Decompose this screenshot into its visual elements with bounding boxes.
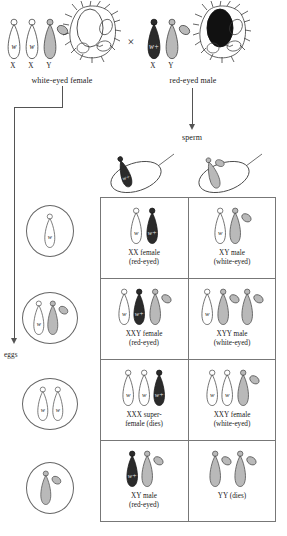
chromosome-X-w: w [43,213,57,249]
female-arrow-elbow [14,107,63,108]
offspring-label-r3c1-line1: XXX super- [100,411,188,420]
chromosome-Y [216,288,239,326]
offspring-chromosomes-r4c2 [188,446,276,488]
svg-text:w: w [30,42,35,51]
chromosome-X-wplus: w+ [146,18,162,60]
offspring-chromosomes-r2c1: w w+ [100,284,188,326]
sperm-label: sperm [182,133,202,142]
chromosome-X-w: w [117,288,131,326]
chromosome-Y [39,470,61,506]
svg-text:w: w [134,229,139,236]
chromosome-X-wplus: w+ [125,450,139,488]
chromosome-X-wplus: w+ [132,288,146,326]
chromosome-X-w: w [36,386,50,422]
chromosome-Y [140,450,163,488]
chromosome-X-w: w [205,369,219,407]
chromosome-X-wplus: w+ [145,207,159,245]
ovary-cell-icon [63,1,121,67]
offspring-chromosomes-r2c2: w [188,284,276,326]
offspring-label-r3c2-line1: XXY female [188,411,276,420]
female-parent-chromosomes: w w [6,18,68,60]
eggs-arrowhead [11,338,17,344]
offspring-label-r1c1-line1: XX female [100,249,188,258]
svg-text:w: w [142,391,147,398]
genetics-diagram: w w X X Y white-eyed female × [0,0,287,536]
chromosome-Y [46,300,68,336]
svg-text:w+: w+ [135,310,144,317]
svg-text:w: w [210,391,215,398]
svg-text:w+: w+ [127,472,136,479]
offspring-label-r4c1-line2: (red-eyed) [100,501,188,510]
svg-text:w: w [218,229,223,236]
offspring-cell-r2c1: w w+ XXY female (red-eyed) [100,278,188,359]
svg-text:w: w [122,310,127,317]
chromosome-X-w: w [200,288,214,326]
chromosome-Y [236,369,259,407]
offspring-label-r1c2-line1: XY male [188,249,276,258]
chromosome-X-w: w [137,369,151,407]
svg-text:w: w [126,391,131,398]
eggs-label: eggs [4,351,18,359]
chromosome-X-w: w [129,207,143,245]
offspring-label-r2c2-line1: XYY male [188,330,276,339]
chromosome-X-w: w [213,207,227,245]
offspring-label-r4c2-line1: YY (dies) [188,492,276,501]
male-parent-chromosomes: w+ [146,18,190,60]
egg-chromosomes-0: w [26,213,74,249]
chromosome-Y [228,207,251,245]
svg-text:w+: w+ [147,229,156,236]
testis-cell-icon [192,1,252,67]
chromosome-X-w: w [32,300,46,336]
chromosome-X-w: w [121,369,135,407]
chromosome-Y [240,288,263,326]
offspring-cell-r1c1: w w+ XX female (red-eyed) [100,197,188,278]
egg-chromosomes-1: w [22,300,78,336]
offspring-label-r4c1-line1: XY male [100,492,188,501]
cross-symbol: × [128,35,135,50]
female-chrom-label-0: X [10,62,15,70]
offspring-chromosomes-r3c2: w w [188,365,276,407]
egg-chromosomes-2: w w [22,386,78,422]
sperm-arrow-shaft [192,88,193,126]
male-chrom-label-1: Y [168,62,173,70]
offspring-cell-r1c2: w XY male (white-eyed) [188,197,276,278]
offspring-label-r1c1-line2: (red-eyed) [100,258,188,267]
offspring-label-r1c2-line2: (white-eyed) [188,258,276,267]
offspring-cell-r2c2: w XYY male (white-eyed) [188,278,276,359]
offspring-chromosomes-r1c1: w w+ [100,203,188,245]
offspring-label-r2c2-line2: (white-eyed) [188,339,276,348]
offspring-chromosomes-r1c2: w [188,203,276,245]
female-arrow-stem [62,86,63,108]
chromosome-X-wplus: w+ [152,369,166,407]
offspring-cell-r3c2: w w XXY female (white-eyed) [188,359,276,440]
svg-text:w+: w+ [155,391,164,398]
male-parent-label: red-eyed male [170,76,217,85]
chromosome-Y [208,450,231,488]
svg-text:w: w [205,310,210,317]
egg-chromosomes-3 [26,470,74,506]
svg-text:w: w [12,42,17,51]
female-chrom-label-1: X [28,62,33,70]
offspring-label-r3c1-line2: female (dies) [100,420,188,429]
eggs-arrow-shaft [14,107,15,340]
svg-text:w+: w+ [149,42,159,51]
offspring-label-r3c2-line2: (white-eyed) [188,420,276,429]
offspring-cell-r3c1: w w w+ XXX super- female (dies) [100,359,188,440]
svg-text:w: w [225,391,230,398]
offspring-cell-r4c2: YY (dies) [188,440,276,522]
female-parent-label: white-eyed female [31,76,92,85]
female-chrom-label-2: Y [46,62,51,70]
chromosome-X-w: w [220,369,234,407]
sperm-arrowhead [189,124,195,130]
offspring-chromosomes-r3c1: w w w+ [100,365,188,407]
chromosome-X-w: w [51,386,65,422]
chromosome-X-w: w [24,18,40,60]
male-chrom-label-0: X [150,62,155,70]
chromosome-Y [233,450,256,488]
offspring-label-r2c1-line1: XXY female [100,330,188,339]
offspring-label-r2c1-line2: (red-eyed) [100,339,188,348]
offspring-chromosomes-r4c1: w+ [100,446,188,488]
chromosome-Y [164,18,190,60]
chromosome-Y [148,288,171,326]
chromosome-X-w: w [6,18,22,60]
